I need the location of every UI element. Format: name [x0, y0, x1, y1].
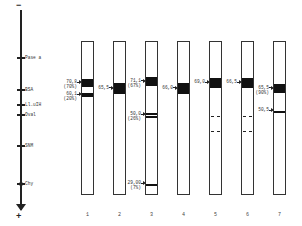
band [82, 79, 93, 87]
faint-band [211, 116, 220, 117]
marker-tick [17, 57, 25, 59]
marker-tick [17, 145, 25, 147]
molecular-weight-value: 69,0 [194, 79, 205, 84]
lane-number: 1 [81, 212, 94, 218]
band [242, 78, 253, 88]
marker-label: Chy [25, 181, 33, 186]
lane-number: 5 [209, 212, 222, 218]
marker-tick [17, 89, 25, 91]
lane-1 [81, 41, 94, 195]
lane-5 [209, 41, 222, 195]
lane-number: 3 [145, 212, 158, 218]
band-label: 69,0 [194, 79, 205, 84]
band-label: 50,0(26%) [127, 111, 141, 121]
band [146, 184, 157, 186]
lane-number: 7 [273, 212, 286, 218]
band-label: 66,0 [162, 85, 173, 90]
arrow-head-icon [207, 80, 210, 84]
marker-label: BSA [25, 87, 33, 92]
marker-label: SNM [25, 143, 33, 148]
marker-tick [17, 114, 25, 116]
positive-pole-label: + [16, 213, 21, 222]
arrow-head-icon [143, 181, 146, 185]
arrow-head-icon [175, 86, 178, 90]
lane-3 [145, 41, 158, 195]
marker-label: Ll.uIH [25, 102, 41, 107]
molecular-weight-value: 65,5 [98, 85, 109, 90]
percentage-value: (67%) [127, 83, 141, 88]
band [114, 83, 125, 94]
marker-label: Oval [25, 112, 36, 117]
arrow-head-icon [271, 86, 274, 90]
percentage-value: (7%) [127, 185, 141, 190]
molecular-weight-value: 71,1 [127, 78, 141, 83]
faint-band [243, 116, 252, 117]
faint-band [243, 131, 252, 132]
molecular-weight-value: 50,5 [258, 107, 269, 112]
band-label: 29,00(7%) [127, 180, 141, 190]
band [274, 84, 285, 93]
band-label: 50,5 [258, 107, 269, 112]
arrow-head-icon [239, 80, 242, 84]
band-label: 70,8(70%) [63, 79, 77, 89]
band-label: 66,5 [226, 79, 237, 84]
lane-7 [273, 41, 286, 195]
marker-label: Pase a [25, 55, 41, 60]
arrow-head-icon [79, 92, 82, 96]
molecular-weight-value: 65,5 [255, 85, 269, 90]
lane-2 [113, 41, 126, 195]
arrow-head-icon [111, 86, 114, 90]
band [210, 78, 221, 88]
percentage-value: (26%) [127, 116, 141, 121]
band [146, 116, 157, 118]
lane-number: 6 [241, 212, 254, 218]
band-label: 71,1(67%) [127, 78, 141, 88]
band-label: 60,1(20%) [63, 91, 77, 101]
band-label: 65,5(90%) [255, 85, 269, 95]
band [146, 113, 157, 115]
faint-band [211, 131, 220, 132]
lane-6 [241, 41, 254, 195]
arrow-head-icon [143, 112, 146, 116]
band [178, 83, 189, 94]
band [274, 111, 285, 113]
band-label: 65,5 [98, 85, 109, 90]
percentage-value: (20%) [63, 96, 77, 101]
arrow-head-icon [79, 80, 82, 84]
molecular-weight-value: 66,5 [226, 79, 237, 84]
lane-number: 2 [113, 212, 126, 218]
band [146, 77, 157, 86]
lane-4 [177, 41, 190, 195]
migration-axis [20, 10, 22, 210]
arrow-head-icon [271, 108, 274, 112]
percentage-value: (70%) [63, 84, 77, 89]
dot-icon [19, 182, 23, 186]
band [82, 93, 93, 97]
arrow-head-icon [143, 79, 146, 83]
marker-tick [17, 104, 25, 106]
lane-number: 4 [177, 212, 190, 218]
percentage-value: (90%) [255, 90, 269, 95]
molecular-weight-value: 66,0 [162, 85, 173, 90]
arrow-down-icon [16, 204, 26, 211]
